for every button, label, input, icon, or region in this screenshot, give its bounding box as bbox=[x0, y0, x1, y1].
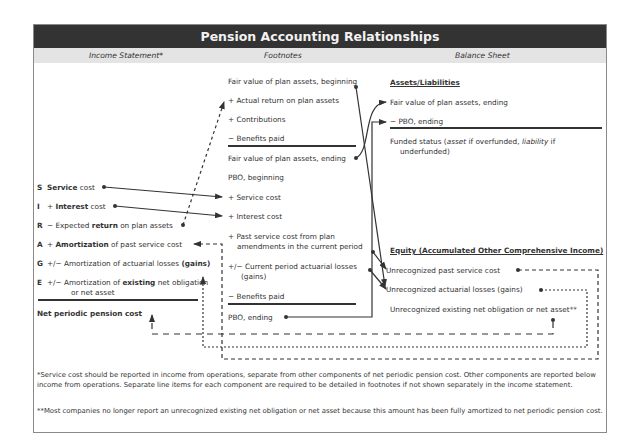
arrow-interest-cost bbox=[115, 206, 222, 216]
arrow-service-cost bbox=[104, 187, 222, 197]
note-existing-obligation: **Most companies no longer report an unr… bbox=[37, 406, 603, 416]
arrow-past-service bbox=[373, 252, 386, 269]
note-service-cost: *Service cost should be reported in inco… bbox=[37, 370, 603, 390]
arrow-amortize-existing bbox=[152, 315, 553, 334]
arrow-amortize-past-service bbox=[194, 244, 598, 359]
arrow-fv-ending bbox=[356, 102, 386, 158]
arrow-pbo-ending bbox=[286, 122, 386, 317]
arrow-expected-return bbox=[183, 102, 224, 225]
arrow-amortize-actuarial bbox=[203, 277, 587, 347]
